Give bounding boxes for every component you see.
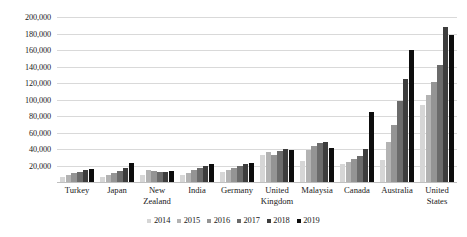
bar — [357, 156, 362, 182]
x-axis-tick-label: Japan — [97, 184, 137, 212]
bar — [363, 149, 368, 182]
y-axis-tick-label: 100,000 — [25, 95, 51, 104]
bar — [249, 163, 254, 182]
bar-group — [97, 17, 137, 182]
bar — [443, 27, 448, 182]
bar — [323, 142, 328, 182]
bar — [340, 164, 345, 182]
x-axis-tick-label: United States — [417, 184, 457, 212]
x-axis: TurkeyJapanNew ZealandIndiaGermanyUnited… — [57, 184, 457, 212]
bar — [209, 164, 214, 182]
bar — [83, 170, 88, 182]
bar — [129, 163, 134, 182]
bar — [386, 142, 391, 182]
y-axis-tick-label: 160,000 — [25, 46, 51, 55]
bar — [289, 150, 294, 182]
bar — [431, 82, 436, 182]
bar — [397, 101, 402, 182]
bar-groups — [57, 17, 457, 182]
legend-label: 2014 — [154, 216, 170, 225]
bar — [380, 160, 385, 182]
bar — [449, 35, 454, 182]
bar — [77, 172, 82, 182]
y-axis-tick-label: 60,000 — [29, 128, 51, 137]
chart-legend: 201420152016201720182019 — [0, 216, 467, 225]
bar — [226, 170, 231, 182]
bar — [420, 105, 425, 182]
bar — [369, 112, 374, 182]
y-axis-tick-label: 200,000 — [25, 13, 51, 22]
bar — [151, 171, 156, 182]
bar — [203, 166, 208, 182]
bar-group — [217, 17, 257, 182]
legend-label: 2018 — [273, 216, 289, 225]
bar — [180, 175, 185, 182]
legend-label: 2017 — [244, 216, 260, 225]
x-axis-tick-label: Canada — [337, 184, 377, 212]
legend-item[interactable]: 2019 — [297, 216, 320, 225]
bar-group — [177, 17, 217, 182]
legend-item[interactable]: 2015 — [177, 216, 200, 225]
legend-item[interactable]: 2018 — [267, 216, 290, 225]
legend-item[interactable]: 2014 — [147, 216, 170, 225]
bar-group — [257, 17, 297, 182]
bar — [100, 177, 105, 182]
legend-swatch-icon — [297, 219, 301, 223]
bar — [237, 166, 242, 183]
legend-swatch-icon — [207, 219, 211, 223]
x-axis-tick-label: New Zealand — [137, 184, 177, 212]
bar — [111, 173, 116, 182]
bar — [300, 161, 305, 182]
x-axis-tick-label: Malaysia — [297, 184, 337, 212]
bar-group — [377, 17, 417, 182]
bar — [403, 79, 408, 182]
bar — [163, 172, 168, 182]
bar — [277, 151, 282, 182]
bar — [391, 125, 396, 182]
bar-group — [417, 17, 457, 182]
y-axis-tick-label: 140,000 — [25, 62, 51, 71]
bar — [243, 164, 248, 182]
bar — [169, 171, 174, 182]
legend-label: 2019 — [303, 216, 319, 225]
bar — [60, 177, 65, 182]
bar-group — [337, 17, 377, 182]
y-axis-tick-label: 20,000 — [29, 161, 51, 170]
legend-item[interactable]: 2017 — [237, 216, 260, 225]
legend-item[interactable]: 2016 — [207, 216, 230, 225]
bar — [123, 168, 128, 182]
bar — [197, 168, 202, 182]
bar — [260, 155, 265, 182]
legend-swatch-icon — [237, 219, 241, 223]
bar — [329, 148, 334, 182]
y-axis-tick-label: 40,000 — [29, 145, 51, 154]
legend-label: 2015 — [184, 216, 200, 225]
bar — [231, 168, 236, 182]
y-axis: 200,000180,000160,000140,000120,000100,0… — [0, 17, 54, 182]
bar — [437, 65, 442, 182]
bar — [351, 159, 356, 182]
bar — [186, 173, 191, 182]
legend-swatch-icon — [147, 219, 151, 223]
x-axis-tick-label: India — [177, 184, 217, 212]
bar — [140, 175, 145, 182]
x-axis-tick-label: United Kingdom — [257, 184, 297, 212]
gridline — [57, 182, 457, 183]
bar-chart: 200,000180,000160,000140,000120,000100,0… — [0, 0, 467, 237]
legend-swatch-icon — [177, 219, 181, 223]
x-axis-tick-label: Germany — [217, 184, 257, 212]
bar — [220, 172, 225, 182]
bar — [426, 95, 431, 182]
bar — [71, 173, 76, 182]
y-axis-tick-label: 120,000 — [25, 79, 51, 88]
bar — [266, 152, 271, 182]
bar-group — [57, 17, 97, 182]
bar — [157, 172, 162, 182]
bar-group — [297, 17, 337, 182]
bar — [106, 175, 111, 182]
bar — [306, 150, 311, 182]
bar — [317, 143, 322, 182]
legend-swatch-icon — [267, 219, 271, 223]
bar — [191, 170, 196, 182]
x-axis-tick-label: Australia — [377, 184, 417, 212]
